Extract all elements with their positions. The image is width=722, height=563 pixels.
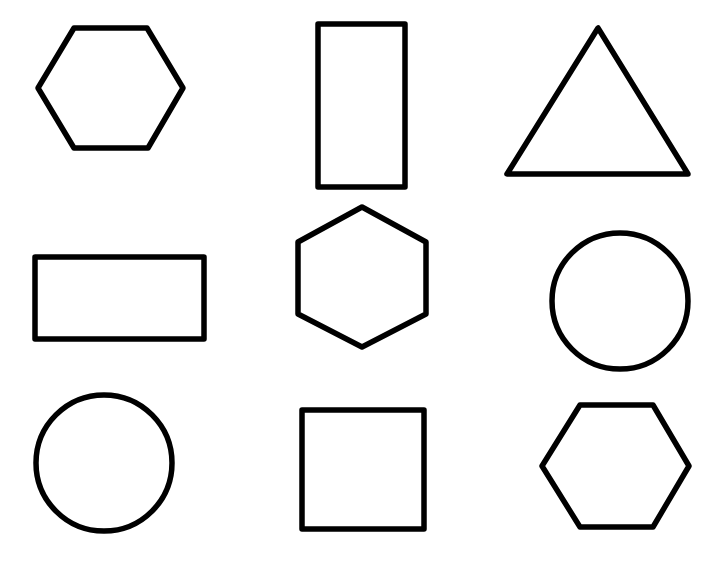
pointy-hexagon-shape [298,207,426,347]
wide-rectangle-shape [35,257,204,339]
shapes-canvas [0,0,722,563]
hexagon-shape [38,28,183,148]
tall-rectangle-shape [318,24,405,187]
square-shape [302,410,424,529]
triangle-shape [507,28,688,174]
hexagon-shape-bottom [542,405,689,527]
circle-shape-left [36,395,172,531]
circle-shape-right [552,233,688,369]
